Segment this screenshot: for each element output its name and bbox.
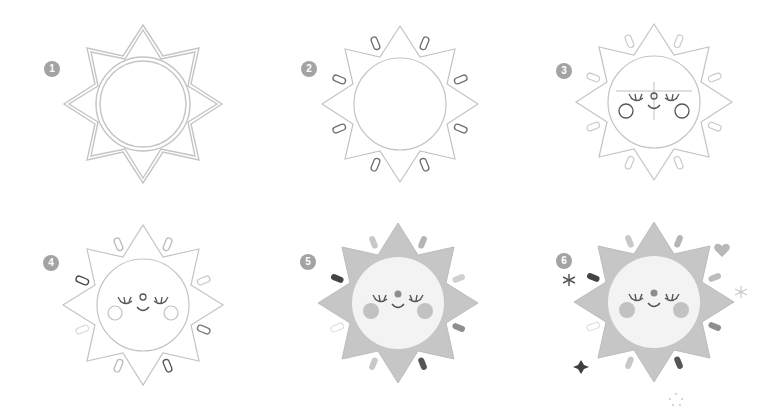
step-1: 1 <box>0 0 259 209</box>
step-4: 4 <box>0 210 259 419</box>
dots-sparkle-icon <box>669 393 683 406</box>
snowflake-sparkle-icon <box>735 286 747 298</box>
step-3: 3 <box>520 0 778 209</box>
sun-with-dashes <box>260 0 519 209</box>
sparkle-star-icon <box>563 274 575 286</box>
diamond-sparkle-icon <box>573 360 589 374</box>
sun-with-guides-face <box>520 0 778 209</box>
step-5: 5 <box>260 210 519 419</box>
sun-colored <box>260 210 519 419</box>
sun-final-decorated <box>520 210 778 419</box>
sun-clean-lineart <box>0 210 259 419</box>
step-2: 2 <box>260 0 519 209</box>
sun-outline-double <box>0 0 259 209</box>
step-6: 6 <box>520 210 778 419</box>
heart-icon <box>714 244 730 257</box>
